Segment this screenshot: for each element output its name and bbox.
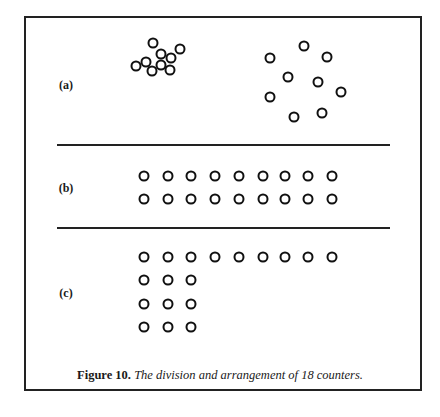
counter-c	[234, 252, 245, 263]
counter-b	[139, 171, 150, 182]
counter-c	[186, 299, 197, 310]
counter-a	[313, 77, 324, 88]
panel-label-a: (a)	[59, 78, 73, 93]
counter-b	[186, 194, 197, 205]
counter-c	[186, 275, 197, 286]
counter-c	[163, 322, 174, 333]
counter-c	[139, 252, 150, 263]
counter-a	[148, 38, 159, 49]
figure-frame	[24, 16, 422, 391]
counter-a	[165, 65, 176, 76]
counter-a	[265, 53, 276, 64]
counter-a	[322, 52, 333, 63]
counter-b	[258, 194, 269, 205]
counter-c	[163, 275, 174, 286]
counter-b	[163, 194, 174, 205]
counter-c	[163, 252, 174, 263]
counter-c	[186, 252, 197, 263]
panel-divider	[57, 227, 390, 229]
counter-c	[327, 252, 338, 263]
counter-a	[336, 87, 347, 98]
counter-a	[289, 112, 300, 123]
counter-c	[280, 252, 291, 263]
counter-a	[175, 44, 186, 55]
counter-a	[283, 72, 294, 83]
figure-number: Figure 10.	[77, 368, 131, 382]
counter-c	[258, 252, 269, 263]
counter-b	[186, 171, 197, 182]
counter-b	[210, 171, 221, 182]
counter-b	[280, 194, 291, 205]
panel-label-c: (c)	[59, 286, 72, 301]
counter-c	[210, 252, 221, 263]
counter-a	[299, 41, 310, 52]
counter-c	[303, 252, 314, 263]
counter-c	[186, 322, 197, 333]
counter-c	[139, 275, 150, 286]
caption-text: The division and arrangement of 18 count…	[134, 368, 363, 382]
counter-b	[280, 171, 291, 182]
counter-a	[317, 108, 328, 119]
counter-c	[139, 299, 150, 310]
counter-b	[234, 171, 245, 182]
counter-a	[265, 92, 276, 103]
counter-b	[327, 171, 338, 182]
counter-a	[166, 53, 177, 64]
counter-b	[327, 194, 338, 205]
counter-b	[303, 171, 314, 182]
counter-c	[139, 322, 150, 333]
counter-b	[210, 194, 221, 205]
counter-b	[139, 194, 150, 205]
panel-label-b: (b)	[59, 181, 74, 196]
counter-b	[163, 171, 174, 182]
figure-caption: Figure 10. The division and arrangement …	[0, 368, 440, 383]
panel-divider	[57, 144, 390, 146]
counter-c	[163, 299, 174, 310]
counter-b	[258, 171, 269, 182]
counter-b	[303, 194, 314, 205]
counter-b	[234, 194, 245, 205]
